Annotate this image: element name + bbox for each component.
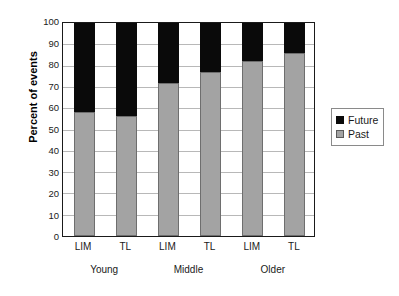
y-axis-tick-label: 60	[33, 103, 59, 113]
stacked-bar[interactable]	[158, 23, 179, 236]
bar-slot	[242, 23, 263, 236]
bar-segment-past[interactable]	[284, 53, 305, 236]
bar-segment-past[interactable]	[242, 61, 263, 236]
y-axis-tick-label: 10	[33, 211, 59, 221]
stacked-bar[interactable]	[116, 23, 137, 236]
bar-segment-future[interactable]	[116, 23, 137, 116]
x-axis-tick-label: LIM	[146, 241, 188, 253]
stacked-bar[interactable]	[74, 23, 95, 236]
x-axis-tick-label: TL	[273, 241, 315, 253]
bar-segment-future[interactable]	[200, 23, 221, 72]
legend-item-past[interactable]: Past	[336, 127, 378, 141]
y-axis-tick-label: 30	[33, 168, 59, 178]
chart-legend: Future Past	[331, 108, 384, 146]
y-axis-tick-label: 80	[33, 60, 59, 70]
y-axis-tick-label: 90	[33, 39, 59, 49]
legend-swatch-future-icon	[336, 116, 344, 124]
bar-slot	[200, 23, 221, 236]
bar-segment-future[interactable]	[284, 23, 305, 53]
bar-slot	[158, 23, 179, 236]
gridline	[63, 87, 314, 88]
stacked-bar[interactable]	[242, 23, 263, 236]
x-axis-group-label: Older	[231, 264, 315, 276]
y-axis-tick-label: 0	[33, 232, 59, 242]
x-axis-group-label: Middle	[146, 264, 230, 276]
bar-segment-past[interactable]	[200, 72, 221, 236]
gridline	[63, 172, 314, 173]
y-axis-tick-label: 40	[33, 146, 59, 156]
gridline	[63, 44, 314, 45]
legend-item-future[interactable]: Future	[336, 113, 378, 127]
y-axis-tick-label: 100	[33, 17, 59, 27]
y-axis-tick-label: 70	[33, 82, 59, 92]
x-axis-tick-label: TL	[104, 241, 146, 253]
gridline	[63, 193, 314, 194]
bar-segment-future[interactable]	[158, 23, 179, 83]
stacked-bar[interactable]	[284, 23, 305, 236]
chart-container: Percent of events 1009080706050403020100…	[0, 0, 399, 296]
plot-area	[62, 22, 315, 237]
gridline	[63, 66, 314, 67]
bar-slot	[284, 23, 305, 236]
bar-segment-future[interactable]	[74, 23, 95, 112]
plot-inner	[63, 23, 314, 236]
y-axis-tick-label: 20	[33, 189, 59, 199]
gridline	[63, 108, 314, 109]
bar-slot	[74, 23, 95, 236]
y-axis-tick-label: 50	[33, 125, 59, 135]
bar-segment-past[interactable]	[158, 83, 179, 236]
x-axis-tick-label: LIM	[231, 241, 273, 253]
x-axis-tick-label: LIM	[62, 241, 104, 253]
stacked-bar[interactable]	[200, 23, 221, 236]
gridline	[63, 151, 314, 152]
legend-swatch-past-icon	[336, 130, 344, 138]
legend-label-future: Future	[348, 115, 378, 126]
x-axis-group-label: Young	[62, 264, 146, 276]
bar-slot	[116, 23, 137, 236]
gridline	[63, 130, 314, 131]
legend-label-past: Past	[348, 129, 369, 140]
bar-segment-past[interactable]	[116, 116, 137, 236]
gridline	[63, 215, 314, 216]
bar-segment-future[interactable]	[242, 23, 263, 61]
x-axis-tick-label: TL	[189, 241, 231, 253]
bar-segment-past[interactable]	[74, 112, 95, 236]
